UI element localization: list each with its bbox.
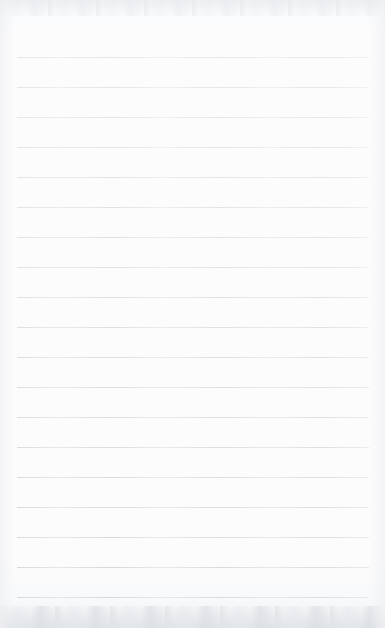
rule-line — [17, 117, 369, 118]
rule-line — [17, 327, 369, 328]
rule-line — [17, 597, 369, 598]
rule-line — [17, 237, 369, 238]
rule-line — [17, 87, 369, 88]
rule-line — [17, 297, 369, 298]
rule-line — [17, 267, 369, 268]
rule-line — [17, 447, 369, 448]
rule-line — [17, 147, 369, 148]
rule-line — [17, 507, 369, 508]
rule-line — [17, 537, 369, 538]
rule-line — [17, 387, 369, 388]
rule-line — [17, 177, 369, 178]
rule-line — [17, 477, 369, 478]
rule-line — [17, 57, 369, 58]
rule-line — [17, 207, 369, 208]
scanned-page — [0, 0, 385, 628]
rule-line — [17, 357, 369, 358]
rule-line — [17, 567, 369, 568]
rule-line — [17, 417, 369, 418]
ruled-lines-group — [0, 0, 385, 628]
